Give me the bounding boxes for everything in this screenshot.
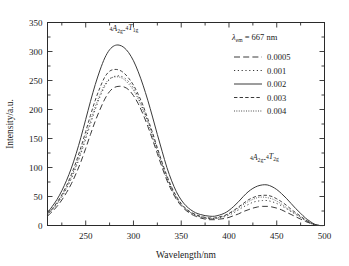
y-axis-title: Intensity/a.u.: [5, 99, 15, 149]
y-tick-label: 200: [29, 105, 43, 115]
x-tick-label: 400: [222, 231, 236, 241]
peak-annotations: 4A2g-4T1g4A2g-4T2g: [110, 23, 279, 164]
x-tick-label: 350: [174, 231, 188, 241]
legend-title: λem = 667 nm: [231, 32, 278, 43]
legend-label-0.001: 0.001: [267, 66, 286, 76]
y-tick-label: 350: [29, 18, 43, 28]
x-tick-label: 450: [270, 231, 284, 241]
figure-container: 050100150200250300350 250300350400450500…: [0, 0, 349, 266]
legend-label-0.0005: 0.0005: [267, 52, 290, 62]
emission-excitation-spectra-chart: 050100150200250300350 250300350400450500…: [0, 0, 349, 266]
peak2-assignment: 4A2g-4T2g: [250, 152, 279, 164]
y-tick-label: 300: [29, 47, 43, 57]
y-tick-label: 100: [29, 163, 43, 173]
x-axis-title: Wavelength/nm: [156, 250, 217, 260]
y-tick-label: 0: [38, 221, 43, 231]
y-tick-label: 250: [29, 76, 43, 86]
legend-entries: 0.00050.0010.0020.0030.004: [234, 52, 290, 116]
x-axis-tick-labels: 250300350400450500: [79, 231, 332, 241]
legend-label-0.003: 0.003: [267, 93, 286, 103]
y-tick-label: 50: [34, 192, 44, 202]
y-axis-tick-labels: 050100150200250300350: [29, 18, 43, 231]
y-tick-label: 150: [29, 134, 43, 144]
peak1-assignment: 4A2g-4T1g: [110, 23, 139, 35]
legend: λem = 667 nm 0.00050.0010.0020.0030.004: [231, 32, 290, 116]
legend-label-0.002: 0.002: [267, 79, 286, 89]
x-tick-label: 500: [318, 231, 332, 241]
x-tick-label: 250: [79, 231, 93, 241]
legend-label-0.004: 0.004: [267, 106, 287, 116]
x-tick-label: 300: [127, 231, 141, 241]
